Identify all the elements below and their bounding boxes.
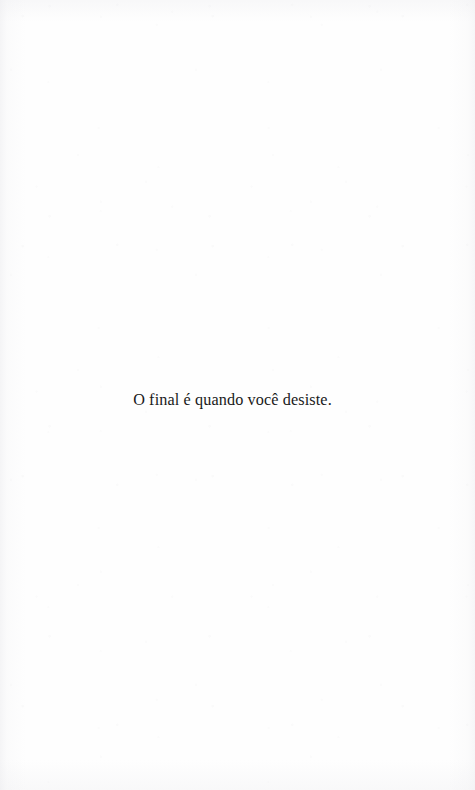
body-text-line: O final é quando você desiste. — [133, 391, 332, 410]
book-page: O final é quando você desiste. — [0, 0, 475, 790]
body-text-block: O final é quando você desiste. — [0, 391, 475, 410]
